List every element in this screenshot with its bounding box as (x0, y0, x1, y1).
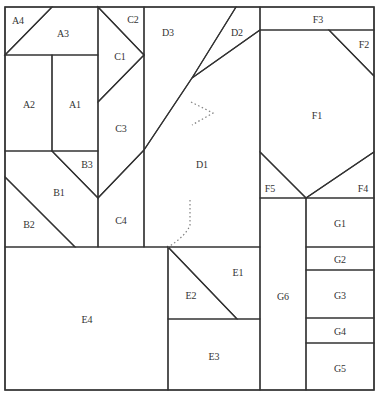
piece-e1 (168, 247, 260, 319)
label-e4: E4 (81, 314, 92, 325)
label-c3: C3 (115, 123, 127, 134)
piece-d2 (192, 7, 260, 78)
label-g1: G1 (334, 218, 346, 229)
label-g4: G4 (334, 326, 346, 337)
label-c1: C1 (114, 51, 126, 62)
label-c2: C2 (127, 14, 139, 25)
stitch-guide-lower (168, 200, 190, 247)
label-f3: F3 (313, 14, 324, 25)
label-d3: D3 (162, 27, 174, 38)
quilt-diagram: A4 A3 A2 A1 B3 B1 B2 C2 C1 C3 C4 D3 D2 D… (0, 0, 379, 396)
label-f5: F5 (265, 183, 276, 194)
label-g3: G3 (334, 290, 346, 301)
label-b1: B1 (53, 187, 65, 198)
label-g6: G6 (277, 291, 289, 302)
stitch-guide-upper (191, 102, 213, 125)
label-g5: G5 (334, 363, 346, 374)
label-d2: D2 (231, 27, 243, 38)
label-a4: A4 (12, 15, 24, 26)
label-f2: F2 (359, 39, 370, 50)
label-e3: E3 (208, 351, 219, 362)
label-a2: A2 (23, 99, 35, 110)
label-a3: A3 (57, 28, 69, 39)
label-e1: E1 (232, 267, 243, 278)
label-g2: G2 (334, 254, 346, 265)
label-f1: F1 (312, 110, 323, 121)
label-d1: D1 (196, 159, 208, 170)
piece-c4 (98, 150, 144, 247)
label-f4: F4 (358, 183, 369, 194)
label-a1: A1 (69, 99, 81, 110)
label-b3: B3 (81, 159, 93, 170)
label-c4: C4 (115, 215, 127, 226)
label-b2: B2 (23, 219, 35, 230)
label-e2: E2 (185, 290, 196, 301)
piece-e2 (168, 247, 237, 319)
